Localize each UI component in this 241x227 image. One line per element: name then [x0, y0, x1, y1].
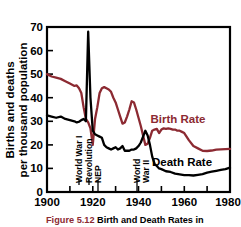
x-axis-tick-labels: 1900 1920 1940 1960 1980 [34, 196, 241, 208]
annotation-label-world-war-i: World War I [74, 136, 84, 183]
x-tick-label-1900: 1900 [34, 196, 60, 208]
y-tick-label-60: 60 [30, 45, 43, 57]
birth-rate-label: Birth Rate [151, 113, 206, 125]
y-axis-tick-labels: 0 10 20 30 40 50 60 70 [30, 21, 43, 198]
annotation-label-world-war-ii-line2: War II [141, 160, 151, 183]
caption-text: Birth and Death Rates in [97, 215, 204, 225]
birth-death-rate-chart: 0 10 20 30 40 50 60 70 1900 1920 1940 19… [0, 0, 241, 227]
y-tick-label-20: 20 [30, 139, 43, 151]
death-rate-label: Death Rate [152, 156, 212, 168]
y-axis-title-line1: Births and deaths [4, 61, 16, 158]
y-tick-label-40: 40 [30, 92, 43, 104]
y-tick-label-10: 10 [30, 162, 43, 174]
annotation-label-nep: NEP [93, 165, 103, 183]
x-tick-label-1920: 1920 [80, 196, 106, 208]
caption-figure-number: Figure 5.12 [46, 215, 95, 225]
x-tick-label-1960: 1960 [172, 196, 198, 208]
figure-caption: Figure 5.12 Birth and Death Rates in [46, 215, 204, 225]
y-tick-label-30: 30 [30, 115, 43, 127]
y-axis-title-line2: per thousand population [17, 43, 29, 178]
annotation-world-war-i: World War I [74, 136, 84, 185]
x-tick-label-1980: 1980 [215, 196, 241, 208]
x-tick-label-1940: 1940 [126, 196, 152, 208]
y-axis-title: Births and deaths per thousand populatio… [4, 43, 29, 178]
y-tick-label-50: 50 [30, 68, 43, 80]
figure-container: 0 10 20 30 40 50 60 70 1900 1920 1940 19… [0, 0, 241, 227]
y-tick-label-70: 70 [30, 21, 43, 33]
